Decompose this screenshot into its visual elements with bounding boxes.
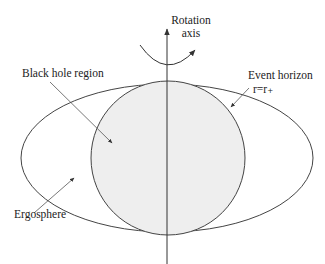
kerr-black-hole-diagram (0, 0, 325, 264)
black-hole-region (91, 81, 245, 235)
rotation-axis-label: Rotation axis (168, 15, 214, 39)
ergosphere-label: Ergosphere (14, 209, 66, 221)
event-horizon-leader-line (231, 88, 249, 107)
black-hole-region-label: Black hole region (22, 68, 104, 80)
rotation-axis-label-line2: axis (168, 28, 214, 40)
event-horizon-equation: r=r₊ (253, 84, 273, 96)
event-horizon-label: Event horizon (248, 70, 313, 82)
rotation-axis-label-line1: Rotation (168, 15, 214, 27)
